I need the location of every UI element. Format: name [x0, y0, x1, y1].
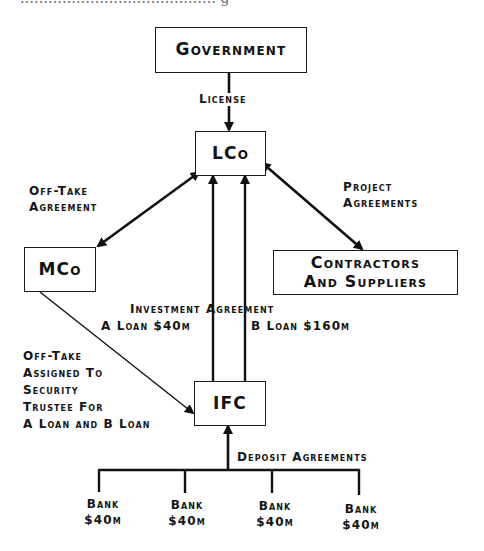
contractors-label-line1: Contractors: [311, 254, 420, 272]
government-node: Government: [155, 27, 307, 73]
page-header-fragment: …………………………………… g: [20, 0, 229, 6]
ifc-node: IFC: [194, 381, 266, 426]
a-loan-label: A Loan $40m: [101, 318, 191, 334]
bank-node-3: Bank $40m: [253, 498, 297, 530]
bank-node-2: Bank $40m: [165, 497, 209, 529]
contractors-label-line2: And Suppliers: [304, 273, 427, 291]
government-label: Government: [176, 40, 287, 60]
financing-structure-diagram: …………………………………… g Government License LCo …: [0, 0, 484, 551]
lco-label: LCo: [212, 144, 249, 164]
mco-node: MCo: [24, 247, 96, 292]
offtake-assigned-label: Off-Take Assigned To Security Trustee Fo…: [23, 348, 151, 433]
deposit-agreements-label: Deposit Agreements: [237, 449, 368, 465]
ifc-label: IFC: [213, 394, 247, 414]
offtake-agreement-label: Off-Take Agreement: [29, 183, 97, 215]
offtake-agreement-arrow: [98, 176, 194, 246]
lco-node: LCo: [195, 131, 266, 176]
contractors-node: Contractors And Suppliers: [273, 250, 458, 295]
bank-node-4: Bank $40m: [339, 501, 383, 533]
bank-node-1: Bank $40m: [81, 496, 125, 528]
mco-label: MCo: [38, 260, 81, 280]
b-loan-label: B Loan $160m: [251, 318, 350, 334]
license-label: License: [199, 91, 247, 107]
investment-agreement-label: Investment Agreement: [130, 301, 274, 317]
project-agreements-label: Project Agreements: [343, 179, 418, 211]
